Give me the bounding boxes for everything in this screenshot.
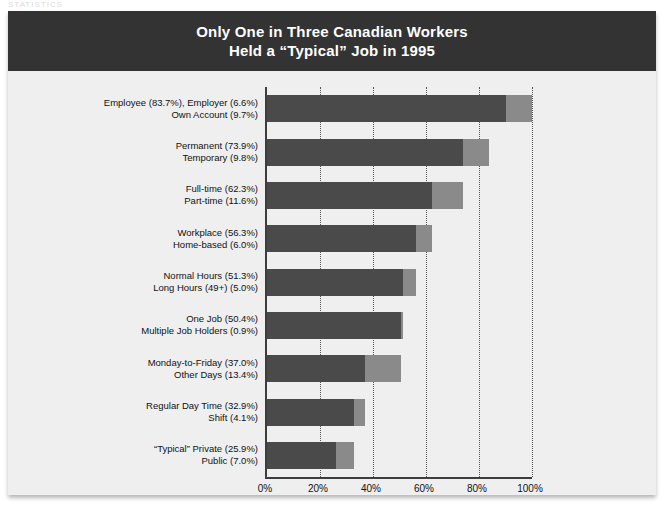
- cropped-header-sliver: STATISTICS: [8, 0, 128, 9]
- category-label-line: Multiple Job Holders (0.9%): [8, 325, 258, 337]
- category-label-line: Own Account (9.7%): [8, 109, 258, 121]
- category-label-line: Monday-to-Friday (37.0%): [8, 357, 258, 369]
- bar-row: [267, 269, 416, 296]
- bar-row: [267, 355, 401, 382]
- x-tick-label: 0%: [258, 483, 272, 494]
- category-label-column: Employee (83.7%), Employer (6.6%)Own Acc…: [8, 87, 258, 477]
- gridline-100: [532, 87, 533, 477]
- x-tick-label: 40%: [361, 483, 381, 494]
- category-label-line: Employee (83.7%), Employer (6.6%): [8, 97, 258, 109]
- bar-row: [267, 225, 432, 252]
- category-label-line: “Typical” Private (25.9%): [8, 443, 258, 455]
- category-label: Workplace (56.3%)Home-based (6.0%): [8, 227, 258, 251]
- bar-segment-primary: [267, 399, 354, 426]
- chart-title-line-1: Only One in Three Canadian Workers: [196, 22, 468, 41]
- category-label-line: Normal Hours (51.3%): [8, 270, 258, 282]
- category-label: Regular Day Time (32.9%)Shift (4.1%): [8, 400, 258, 424]
- bar-segment-primary: [267, 225, 416, 252]
- category-label-line: Full-time (62.3%): [8, 183, 258, 195]
- chart-figure: Only One in Three Canadian Workers Held …: [8, 11, 656, 495]
- bar-segment-secondary: [416, 225, 432, 252]
- bar-segment-secondary: [365, 355, 401, 382]
- category-label: Normal Hours (51.3%)Long Hours (49+) (5.…: [8, 270, 258, 294]
- x-tick-label: 100%: [517, 483, 543, 494]
- x-tick-label: 60%: [414, 483, 434, 494]
- bar-segment-primary: [267, 139, 463, 166]
- bar-segment-primary: [267, 269, 403, 296]
- category-label-line: Shift (4.1%): [8, 412, 258, 424]
- x-axis-tick-labels: 0%20%40%60%80%100%: [265, 483, 530, 499]
- category-label: Permanent (73.9%)Temporary (9.8%): [8, 140, 258, 164]
- bar-segment-secondary: [354, 399, 365, 426]
- category-label-line: Permanent (73.9%): [8, 140, 258, 152]
- category-label: “Typical” Private (25.9%)Public (7.0%): [8, 443, 258, 467]
- bar-segment-secondary: [432, 182, 463, 209]
- bar-segment-secondary: [401, 312, 403, 339]
- category-label-line: Part-time (11.6%): [8, 195, 258, 207]
- category-label-line: Home-based (6.0%): [8, 239, 258, 251]
- bar-segment-secondary: [336, 442, 355, 469]
- bar-row: [267, 95, 532, 122]
- category-label-line: One Job (50.4%): [8, 313, 258, 325]
- category-label-line: Long Hours (49+) (5.0%): [8, 282, 258, 294]
- plot-area: [265, 87, 532, 479]
- bar-segment-primary: [267, 355, 365, 382]
- bar-row: [267, 182, 463, 209]
- bar-row: [267, 312, 403, 339]
- x-tick-label: 20%: [308, 483, 328, 494]
- category-label-line: Regular Day Time (32.9%): [8, 400, 258, 412]
- category-label: Monday-to-Friday (37.0%)Other Days (13.4…: [8, 357, 258, 381]
- category-label: Full-time (62.3%)Part-time (11.6%): [8, 183, 258, 207]
- bar-row: [267, 442, 354, 469]
- category-label-line: Workplace (56.3%): [8, 227, 258, 239]
- category-label-line: Temporary (9.8%): [8, 152, 258, 164]
- category-label: Employee (83.7%), Employer (6.6%)Own Acc…: [8, 97, 258, 121]
- chart-title-line-2: Held a “Typical” Job in 1995: [229, 41, 435, 60]
- category-label: One Job (50.4%)Multiple Job Holders (0.9…: [8, 313, 258, 337]
- chart-title-band: Only One in Three Canadian Workers Held …: [8, 11, 656, 71]
- bar-segment-primary: [267, 312, 401, 339]
- bar-segment-secondary: [403, 269, 416, 296]
- bar-segment-primary: [267, 182, 432, 209]
- bar-segment-secondary: [506, 95, 532, 122]
- bar-segment-primary: [267, 95, 506, 122]
- bar-segment-secondary: [463, 139, 489, 166]
- bar-row: [267, 399, 365, 426]
- category-label-line: Other Days (13.4%): [8, 369, 258, 381]
- category-label-line: Public (7.0%): [8, 455, 258, 467]
- bar-row: [267, 139, 489, 166]
- x-tick-label: 80%: [467, 483, 487, 494]
- bar-segment-primary: [267, 442, 336, 469]
- screenshot-page: STATISTICS Only One in Three Canadian Wo…: [0, 0, 664, 508]
- bar-rows-group: [267, 87, 532, 477]
- plot-wrapper: Employee (83.7%), Employer (6.6%)Own Acc…: [8, 71, 656, 495]
